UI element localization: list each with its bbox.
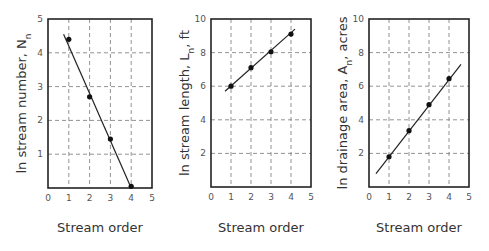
- fit-line: [225, 29, 295, 91]
- data-point: [66, 37, 71, 42]
- data-point: [248, 65, 253, 70]
- y-tick-label: 4: [200, 115, 206, 125]
- y-axis-label: ln stream length, Ln, ft: [177, 30, 196, 176]
- plot-frame: [48, 19, 152, 188]
- chart-stream-length: 012345246810Stream orderln stream length…: [177, 14, 314, 235]
- y-tick-label: 2: [37, 115, 43, 125]
- gridlines: [211, 19, 311, 187]
- y-tick-label: 2: [358, 148, 364, 158]
- plots-canvas: 01234512345Stream orderln stream number,…: [0, 0, 489, 251]
- x-tick-label: 4: [288, 192, 294, 202]
- x-tick-label: 5: [149, 193, 155, 203]
- data-point: [108, 136, 113, 141]
- data-point: [129, 184, 134, 189]
- x-axis-label: Stream order: [376, 220, 462, 235]
- x-tick-label: 3: [268, 192, 274, 202]
- y-tick-label: 4: [358, 115, 364, 125]
- x-tick-label: 5: [308, 192, 314, 202]
- chart-stream-number: 01234512345Stream orderln stream number,…: [14, 14, 155, 235]
- x-axis-label: Stream order: [57, 220, 143, 235]
- x-tick-label: 2: [87, 193, 93, 203]
- y-tick-label: 10: [353, 14, 365, 24]
- data-point: [426, 102, 431, 107]
- y-tick-label: 6: [200, 81, 206, 91]
- data-point: [228, 84, 233, 89]
- y-tick-label: 2: [200, 148, 206, 158]
- x-tick-label: 4: [446, 192, 452, 202]
- data-point: [268, 49, 273, 54]
- x-tick-label: 1: [386, 192, 392, 202]
- plot-frame: [369, 19, 469, 187]
- data-point: [406, 128, 411, 133]
- y-axis-label: ln drainage area, An, acres: [335, 16, 354, 189]
- gridlines: [369, 19, 469, 187]
- figure: 01234512345Stream orderln stream number,…: [0, 0, 489, 251]
- y-tick-label: 6: [358, 81, 364, 91]
- x-tick-label: 0: [366, 192, 372, 202]
- y-tick-label: 10: [195, 14, 207, 24]
- x-tick-label: 2: [248, 192, 254, 202]
- x-tick-label: 2: [406, 192, 412, 202]
- y-tick-label: 1: [37, 149, 43, 159]
- y-axis-label: ln stream number, Nn: [14, 33, 33, 173]
- x-tick-label: 0: [45, 193, 51, 203]
- x-axis-label: Stream order: [218, 220, 304, 235]
- x-tick-label: 0: [208, 192, 214, 202]
- y-tick-label: 8: [358, 48, 364, 58]
- x-tick-label: 5: [466, 192, 472, 202]
- y-tick-label: 4: [37, 48, 43, 58]
- data-point: [87, 94, 92, 99]
- y-tick-label: 8: [200, 48, 206, 58]
- x-tick-label: 1: [66, 193, 72, 203]
- data-point: [386, 154, 391, 159]
- gridlines: [48, 19, 152, 188]
- fit-line: [64, 34, 132, 188]
- x-tick-label: 1: [228, 192, 234, 202]
- plot-frame: [211, 19, 311, 187]
- data-point: [446, 76, 451, 81]
- x-tick-label: 3: [108, 193, 114, 203]
- chart-drainage-area: 012345246810Stream orderln drainage area…: [335, 14, 472, 235]
- data-point: [288, 32, 293, 37]
- x-tick-label: 3: [426, 192, 432, 202]
- y-tick-label: 3: [37, 82, 43, 92]
- x-tick-label: 4: [128, 193, 134, 203]
- y-tick-label: 5: [37, 14, 43, 24]
